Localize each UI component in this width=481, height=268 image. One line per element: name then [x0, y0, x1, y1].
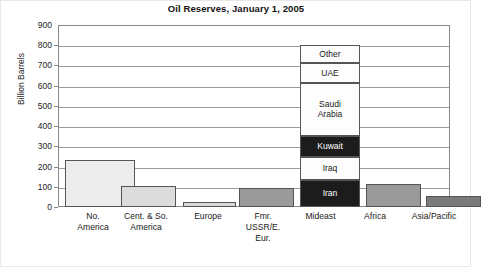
bar-africa[interactable] [366, 184, 421, 207]
bar-cent-so-america[interactable] [121, 186, 176, 207]
gridline-500 [59, 107, 449, 108]
stack-label-other: Other [319, 50, 340, 60]
gridline-800 [59, 46, 449, 47]
x-label-cent-so-america: Cent. & So. America [110, 211, 182, 233]
y-tick-300: 300 [20, 141, 52, 151]
gridline-400 [59, 127, 449, 128]
gridline-300 [59, 147, 449, 148]
bar-asia-pacific[interactable] [426, 196, 481, 207]
stack-segment-saudi-arabia[interactable]: SaudiArabia [300, 83, 360, 136]
bar-europe[interactable] [183, 202, 236, 207]
x-label-asia-pacific: Asia/Pacific [396, 211, 472, 222]
gridline-700 [59, 66, 449, 67]
bar-mideast[interactable]: Other UAE SaudiArabia Kuwait Iraq Iran [300, 45, 360, 207]
stack-segment-uae[interactable]: UAE [300, 63, 360, 83]
y-tick-0: 0 [20, 202, 52, 212]
y-tick-600: 600 [20, 81, 52, 91]
y-tick-400: 400 [20, 121, 52, 131]
y-tick-200: 200 [20, 162, 52, 172]
stack-label-iraq: Iraq [323, 164, 338, 174]
stack-label-kuwait: Kuwait [317, 142, 343, 152]
y-tick-700: 700 [20, 60, 52, 70]
stack-segment-iraq[interactable]: Iraq [300, 157, 360, 180]
stack-segment-iran[interactable]: Iran [300, 180, 360, 207]
x-label-europe: Europe [178, 211, 238, 222]
page-title: Oil Reserves, January 1, 2005 [0, 3, 472, 14]
y-tick-500: 500 [20, 101, 52, 111]
y-tick-900: 900 [20, 20, 52, 30]
stack-segment-other[interactable]: Other [300, 45, 360, 63]
stack-segment-kuwait[interactable]: Kuwait [300, 136, 360, 157]
gridline-600 [59, 87, 449, 88]
y-tick-100: 100 [20, 182, 52, 192]
y-tick-800: 800 [20, 40, 52, 50]
stack-label-uae: UAE [321, 69, 338, 79]
stack-label-saudi-arabia: SaudiArabia [318, 100, 343, 119]
stack-label-iran: Iran [323, 189, 338, 199]
bar-fmr-ussr-e-eur[interactable] [239, 188, 294, 207]
plot-area: Other UAE SaudiArabia Kuwait Iraq Iran [58, 25, 450, 207]
